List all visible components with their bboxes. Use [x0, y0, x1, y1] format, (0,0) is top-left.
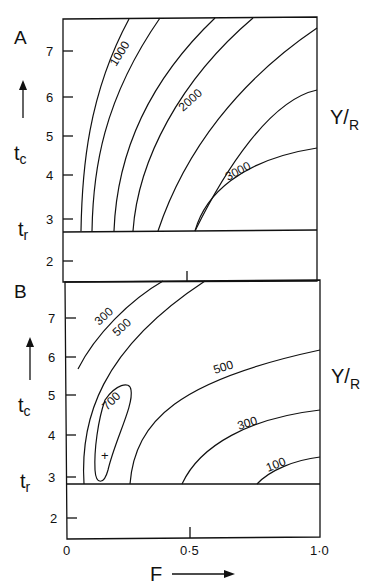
contour-label-700: 700 — [99, 389, 123, 413]
panel-b-y-axis-label: tc tr — [18, 337, 34, 495]
y-tick-6: 6 — [46, 90, 53, 105]
y-tick-2: 2 — [46, 254, 53, 269]
figure-canvas: A 7 6 5 4 3 2 1 — [0, 0, 378, 588]
x-tick-0-5: 0·5 — [180, 543, 199, 558]
arrowhead-icon — [19, 80, 27, 90]
panel-a-y-ticks: 7 6 5 4 3 2 — [46, 44, 73, 269]
x-tick-1-0: 1·0 — [310, 543, 329, 558]
svg-text:tc: tc — [18, 394, 31, 419]
contour-label-500-upper: 500 — [110, 315, 134, 339]
contour-label-300-right: 300 — [236, 413, 260, 433]
y-tick-5: 5 — [46, 129, 53, 144]
arrowhead-icon — [26, 337, 34, 347]
tr-label-a: tr — [18, 218, 29, 243]
y-tick-3: 3 — [46, 212, 53, 227]
panel-a: A 7 6 5 4 3 2 1 — [14, 17, 317, 282]
panel-a-y-axis-label: tc tr — [14, 80, 29, 243]
contour-label-100: 100 — [264, 454, 288, 475]
svg-text:3: 3 — [48, 470, 55, 485]
contour-label-2000: 2000 — [176, 86, 205, 114]
arrowhead-icon — [224, 570, 235, 578]
svg-text:2: 2 — [50, 511, 57, 526]
x-axis: 0 0·5 1·0 F — [63, 543, 329, 585]
yr-label-b: Y/R — [331, 365, 360, 392]
tr-label-b: tr — [20, 470, 31, 495]
svg-text:tc: tc — [14, 142, 27, 167]
svg-text:4: 4 — [48, 428, 55, 443]
x-tick-0: 0 — [63, 543, 70, 558]
panel-a-label: A — [14, 27, 27, 48]
svg-text:5: 5 — [48, 388, 55, 403]
svg-text:6: 6 — [48, 350, 55, 365]
panel-b-y-ticks: 7 6 5 4 3 2 — [48, 311, 77, 526]
y-tick-7: 7 — [46, 44, 53, 59]
contour-label-500-right: 500 — [212, 357, 236, 377]
yr-label-a: Y/R — [330, 106, 359, 133]
panel-b: B 7 6 5 4 3 2 — [14, 271, 320, 539]
panel-b-label: B — [14, 281, 27, 302]
contour-label-3000: 3000 — [223, 159, 253, 184]
y-tick-4: 4 — [46, 168, 53, 183]
contour-label-300-upper: 300 — [92, 304, 116, 328]
svg-text:7: 7 — [48, 311, 55, 326]
x-axis-label: F — [150, 563, 162, 585]
panel-b-contours — [78, 281, 320, 484]
maximum-plus-marker: + — [101, 448, 109, 463]
contour-label-1000: 1000 — [107, 38, 133, 68]
panel-a-tr-line — [63, 230, 317, 232]
